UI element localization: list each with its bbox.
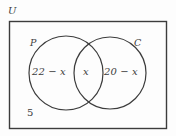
region-value-intersection: x (83, 67, 89, 77)
region-value-outside: 5 (27, 108, 33, 118)
region-value-p-only: 22 − x (32, 67, 66, 77)
universe-label: U (8, 6, 16, 16)
region-value-c-only: 20 − x (104, 67, 138, 77)
set-label-p: P (30, 38, 37, 48)
venn-diagram: U P C 22 − x x 20 − x 5 (0, 0, 176, 136)
set-label-c: C (134, 38, 141, 48)
